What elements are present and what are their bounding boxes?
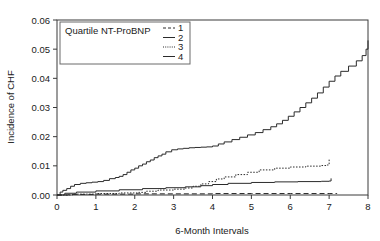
y-tick-label: 0.05 <box>32 44 51 55</box>
y-tick-label: 0.00 <box>32 190 51 201</box>
legend-title: Quartile NT-ProBNP <box>65 25 151 36</box>
curve-quartile-2 <box>57 178 331 195</box>
y-tick-label: 0.06 <box>32 15 51 26</box>
x-axis-tick-labels: 012345678 <box>54 201 370 212</box>
y-tick-label: 0.01 <box>32 160 51 171</box>
chart-svg: 012345678 0.000.010.020.030.040.050.06 6… <box>0 0 380 241</box>
x-axis-ticks <box>57 195 368 199</box>
legend-label-4: 4 <box>178 51 183 62</box>
x-tick-label: 2 <box>132 201 137 212</box>
y-tick-label: 0.02 <box>32 131 51 142</box>
curve-quartile-3 <box>57 159 329 195</box>
x-tick-label: 5 <box>249 201 254 212</box>
x-axis-title: 6-Month Intervals <box>175 225 249 236</box>
y-axis-tick-labels: 0.000.010.020.030.040.050.06 <box>32 15 51 201</box>
x-tick-label: 8 <box>365 201 370 212</box>
x-tick-label: 4 <box>210 201 215 212</box>
y-axis-title: Incidence of CHF <box>5 70 16 144</box>
chart-legend: Quartile NT-ProBNP 1234 <box>60 22 190 64</box>
x-tick-label: 1 <box>93 201 98 212</box>
y-axis-ticks <box>53 20 57 195</box>
x-tick-label: 6 <box>288 201 293 212</box>
x-tick-label: 7 <box>326 201 331 212</box>
x-tick-label: 3 <box>171 201 176 212</box>
figure-container: 012345678 0.000.010.020.030.040.050.06 6… <box>0 0 380 241</box>
y-tick-label: 0.04 <box>32 73 51 84</box>
y-tick-label: 0.03 <box>32 102 51 113</box>
x-tick-label: 0 <box>54 201 59 212</box>
